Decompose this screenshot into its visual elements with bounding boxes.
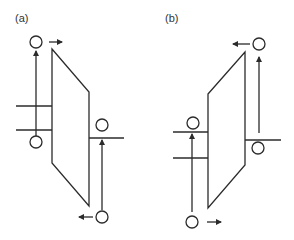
- panel-a: (a): [15, 12, 124, 223]
- top-ball-a: [30, 36, 42, 48]
- top-ball-b: [253, 38, 265, 50]
- bottom-ball-a: [96, 211, 108, 223]
- right-ball-b: [252, 142, 264, 154]
- bottom-ball-b: [186, 216, 198, 228]
- panel-a-label: (a): [15, 12, 28, 24]
- panel-b: (b): [165, 12, 281, 228]
- left-ball-a: [30, 136, 42, 148]
- trapezoid-a: [52, 49, 89, 206]
- left-ball-b: [187, 117, 199, 129]
- trapezoid-b: [208, 52, 245, 208]
- panel-b-label: (b): [165, 12, 178, 24]
- right-ball-a: [96, 119, 108, 131]
